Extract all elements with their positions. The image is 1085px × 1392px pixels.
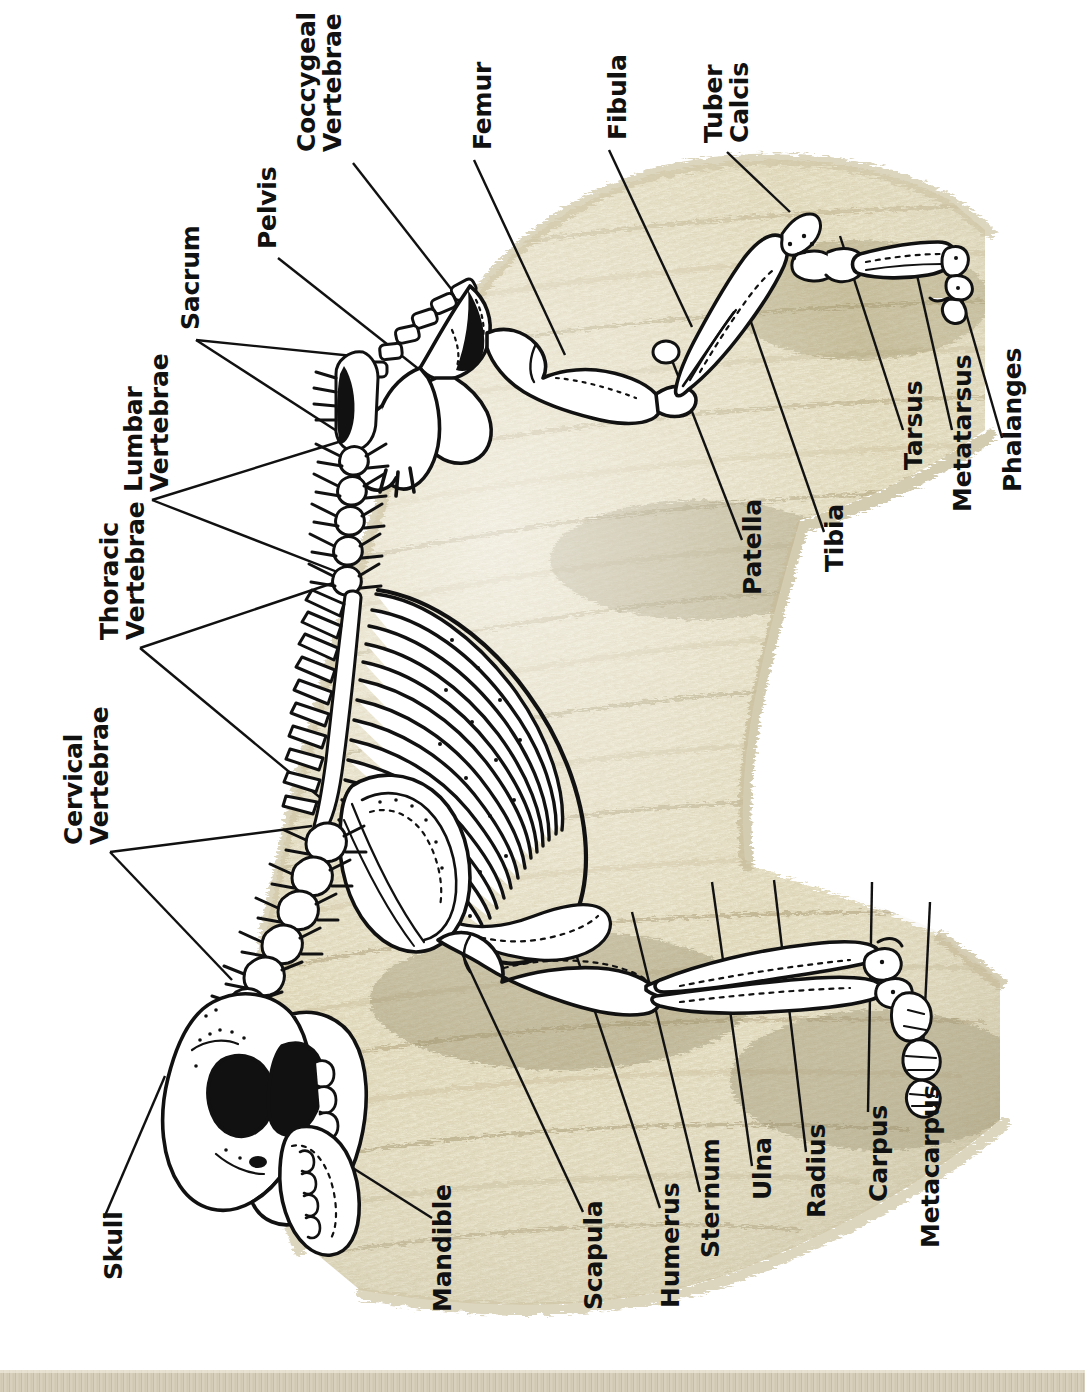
leader-sacrum-a <box>196 340 363 357</box>
label-ulna: Ulna <box>750 1137 776 1200</box>
label-radius: Radius <box>804 1124 830 1218</box>
sacrum-bone <box>314 352 378 451</box>
label-mandible: Mandible <box>430 1184 456 1312</box>
label-scapula: Scapula <box>581 1201 607 1310</box>
label-metatarsus: Metatarsus <box>950 355 976 512</box>
label-carpus: Carpus <box>866 1105 892 1202</box>
label-patella: Patella <box>740 499 766 595</box>
label-thoracic-vertebrae: Thoracic Vertebrae <box>97 502 148 640</box>
label-phalanges: Phalanges <box>1000 348 1026 492</box>
ground-strip <box>0 1370 1085 1392</box>
label-tuber-calcis: Tuber Calcis <box>701 62 752 143</box>
patella-bone <box>653 341 679 363</box>
label-pelvis: Pelvis <box>255 167 281 249</box>
label-cervical-vertebrae: Cervical Vertebrae <box>61 707 112 845</box>
leader-coccygeal <box>353 163 452 290</box>
label-skull: Skull <box>101 1211 127 1280</box>
label-tarsus: Tarsus <box>901 381 927 470</box>
label-sternum: Sternum <box>698 1139 724 1259</box>
label-femur: Femur <box>470 62 496 150</box>
label-coccygeal-vertebrae: Coccygeal Vertebrae <box>294 12 345 152</box>
label-humerus: Humerus <box>658 1183 684 1308</box>
diagram-canvas: Coccygeal Vertebrae Femur Fibula Tuber C… <box>0 0 1085 1392</box>
leader-cervical-b <box>110 852 232 980</box>
label-fibula: Fibula <box>605 54 631 140</box>
label-sacrum: Sacrum <box>178 225 204 330</box>
label-tibia: Tibia <box>822 504 848 572</box>
label-metacarpus: Metacarpus <box>918 1085 944 1248</box>
label-lumbar-vertebrae: Lumbar Vertebrae <box>121 354 172 492</box>
leader-skull <box>104 1076 165 1218</box>
